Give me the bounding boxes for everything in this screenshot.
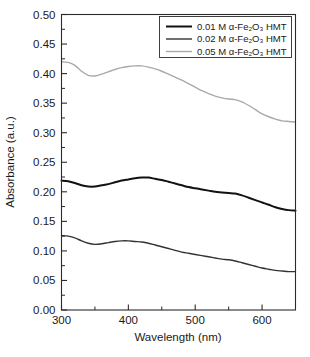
y-tick-label-10: 0.50 bbox=[33, 9, 55, 21]
legend-label-1: 0.02 M α-Fe₂O₃ HMT bbox=[197, 33, 287, 44]
legend: 0.01 M α-Fe₂O₃ HMT0.02 M α-Fe₂O₃ HMT0.05… bbox=[160, 17, 292, 58]
x-tick-label-2: 500 bbox=[186, 314, 205, 326]
y-axis-title: Absorbance (a.u.) bbox=[4, 116, 16, 208]
chart-canvas: 300400500600 0.000.050.100.150.200.250.3… bbox=[0, 0, 310, 357]
y-tick-label-0: 0.00 bbox=[33, 304, 55, 316]
legend-items: 0.01 M α-Fe₂O₃ HMT0.02 M α-Fe₂O₃ HMT0.05… bbox=[166, 21, 287, 57]
y-tick-label-3: 0.15 bbox=[33, 215, 55, 227]
y-tick-label-6: 0.30 bbox=[33, 127, 55, 139]
y-tick-label-9: 0.45 bbox=[33, 38, 55, 50]
absorbance-spectra-figure: 300400500600 0.000.050.100.150.200.250.3… bbox=[0, 0, 310, 357]
x-tick-label-1: 400 bbox=[119, 314, 138, 326]
y-tick-label-7: 0.35 bbox=[33, 97, 55, 109]
y-tick-label-1: 0.05 bbox=[33, 274, 55, 286]
y-tick-label-8: 0.40 bbox=[33, 68, 55, 80]
y-tick-label-2: 0.10 bbox=[33, 245, 55, 257]
legend-label-0: 0.01 M α-Fe₂O₃ HMT bbox=[197, 21, 287, 32]
x-tick-label-3: 600 bbox=[252, 314, 271, 326]
legend-label-2: 0.05 M α-Fe₂O₃ HMT bbox=[197, 46, 287, 57]
y-tick-label-4: 0.20 bbox=[33, 186, 55, 198]
y-tick-label-5: 0.25 bbox=[33, 156, 55, 168]
x-axis-title: Wavelength (nm) bbox=[134, 331, 221, 343]
